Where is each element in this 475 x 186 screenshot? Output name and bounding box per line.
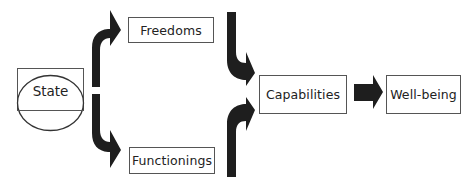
wellbeing-node: Well-being [386, 75, 461, 114]
arrow-state-to-freedoms [92, 10, 121, 87]
arrow-functionings-to-capabilities [227, 97, 255, 177]
diagram-canvas: State Freedoms Functionings Capabilities… [0, 0, 475, 186]
capabilities-label: Capabilities [266, 87, 340, 102]
freedoms-label: Freedoms [140, 23, 202, 38]
freedoms-node: Freedoms [128, 17, 214, 43]
arrow-freedoms-to-capabilities [227, 12, 255, 86]
arrow-state-to-functionings [92, 94, 121, 168]
functionings-node: Functionings [129, 147, 215, 174]
wellbeing-label: Well-being [390, 87, 457, 102]
capabilities-node: Capabilities [259, 75, 347, 114]
state-node-shape [18, 69, 84, 131]
functionings-label: Functionings [132, 153, 212, 168]
arrow-capabilities-to-wellbeing [354, 75, 383, 109]
state-node-label: State [17, 83, 84, 99]
